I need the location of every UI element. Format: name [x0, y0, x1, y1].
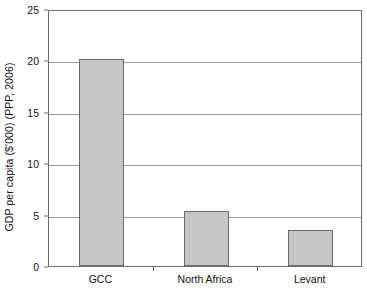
plot-area	[48, 10, 362, 267]
gridline	[49, 217, 361, 218]
gridline	[49, 114, 361, 115]
bar	[288, 230, 333, 266]
y-axis-tick-label: 5	[33, 210, 39, 221]
y-axis-tick-label: 15	[27, 108, 39, 119]
y-axis-tick-label: 25	[27, 5, 39, 16]
gridline	[49, 165, 361, 166]
x-axis-tick-mark	[153, 267, 154, 271]
y-axis-tick-label: 10	[27, 159, 39, 170]
gridlines	[49, 11, 361, 266]
bar	[184, 211, 229, 267]
gridline	[49, 62, 361, 63]
bars-layer	[49, 11, 361, 266]
x-axis-tick-label: Levant	[294, 273, 326, 286]
x-axis-tick-labels: GCCNorth AfricaLevant	[48, 273, 362, 291]
bar-chart-figure: GDP per capita ($'000) (PPP, 2006) 05101…	[0, 0, 367, 294]
x-axis-tick-label: North Africa	[178, 273, 233, 286]
bar	[79, 59, 124, 266]
x-axis-tick-mark	[257, 267, 258, 271]
y-axis-tick-label: 20	[27, 56, 39, 67]
y-axis-tick-label: 0	[33, 262, 39, 273]
y-axis-title: GDP per capita ($'000) (PPP, 2006)	[0, 0, 18, 294]
x-axis-tick-label: GCC	[89, 273, 112, 286]
